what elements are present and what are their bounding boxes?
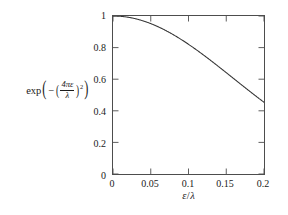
y-axis-ticks-right xyxy=(259,16,265,174)
x-axis-ticks-bottom xyxy=(113,169,264,175)
y-axis-label-denominator: λ xyxy=(60,91,74,100)
y-tick-label-0.2: 0.2 xyxy=(72,139,106,149)
x-tick-label-0.05: 0.05 xyxy=(130,179,170,189)
x-tick-label-0.2: 0.2 xyxy=(243,179,283,189)
x-axis-label: ε/λ xyxy=(112,191,265,202)
y-axis-label-exp: exp xyxy=(26,85,41,96)
plot-area xyxy=(112,15,265,175)
y-tick-label-0.4: 0.4 xyxy=(72,107,106,117)
x-tick-label-0: 0 xyxy=(92,179,132,189)
data-curve xyxy=(113,16,264,102)
chart-figure: exp(−( 4πε λ )2) 1 0.8 0.6 0.4 0.2 0 xyxy=(0,0,288,215)
y-axis-ticks-left xyxy=(113,16,119,174)
y-axis-label-minus: − xyxy=(48,86,55,97)
x-tick-label-0.1: 0.1 xyxy=(168,179,208,189)
y-tick-label-0.6: 0.6 xyxy=(72,75,106,85)
x-axis-label-denominator: λ xyxy=(190,190,195,201)
x-tick-label-0.15: 0.15 xyxy=(205,179,245,189)
y-tick-label-0.8: 0.8 xyxy=(72,43,106,53)
y-tick-label-1: 1 xyxy=(72,11,106,21)
plot-canvas xyxy=(113,16,264,174)
